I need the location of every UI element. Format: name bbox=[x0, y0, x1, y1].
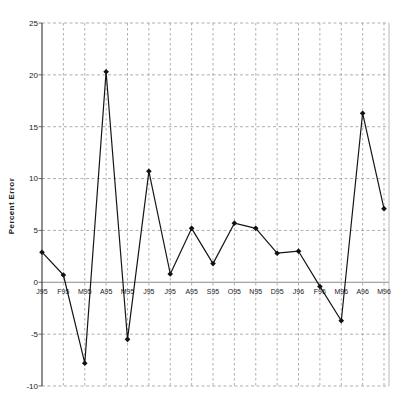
x-tick-label: M96 bbox=[377, 288, 391, 295]
x-tick-label: D95 bbox=[271, 288, 284, 295]
data-point bbox=[338, 318, 344, 324]
data-point bbox=[103, 69, 109, 75]
y-tick-label: -5 bbox=[31, 330, 39, 339]
x-tick-label: A96 bbox=[356, 288, 369, 295]
y-tick-label: 10 bbox=[29, 174, 38, 183]
x-tick-label: A95 bbox=[100, 288, 113, 295]
y-tick-label: 0 bbox=[34, 278, 39, 287]
plot-area: 2520151050-5-10J95F95M95A95M95J95J95A95S… bbox=[0, 0, 407, 409]
x-tick-label: J95 bbox=[165, 288, 176, 295]
x-tick-label: J95 bbox=[36, 288, 47, 295]
y-tick-label: 20 bbox=[29, 71, 38, 80]
data-point bbox=[125, 337, 131, 343]
data-point bbox=[296, 248, 302, 254]
y-tick-label: 15 bbox=[29, 123, 38, 132]
data-point bbox=[232, 220, 238, 226]
data-point bbox=[189, 226, 195, 232]
y-tick-label: 5 bbox=[34, 226, 39, 235]
data-point bbox=[381, 206, 387, 212]
y-tick-label: 25 bbox=[29, 19, 38, 28]
data-point bbox=[210, 261, 216, 267]
x-tick-label: A95 bbox=[185, 288, 198, 295]
data-point bbox=[167, 271, 173, 277]
x-tick-label: N95 bbox=[249, 288, 262, 295]
data-point bbox=[82, 360, 88, 366]
percent-error-chart: Percent Error 2520151050-5-10J95F95M95A9… bbox=[0, 0, 407, 409]
x-tick-label: O95 bbox=[228, 288, 241, 295]
data-point bbox=[360, 110, 366, 116]
y-tick-label: -10 bbox=[26, 382, 38, 391]
chart-page: Percent Error 2520151050-5-10J95F95M95A9… bbox=[0, 0, 407, 409]
x-tick-label: S95 bbox=[207, 288, 220, 295]
x-tick-label: J96 bbox=[293, 288, 304, 295]
x-tick-label: M95 bbox=[121, 288, 135, 295]
x-tick-label: M96 bbox=[334, 288, 348, 295]
x-tick-label: J95 bbox=[143, 288, 154, 295]
data-point bbox=[146, 169, 152, 175]
